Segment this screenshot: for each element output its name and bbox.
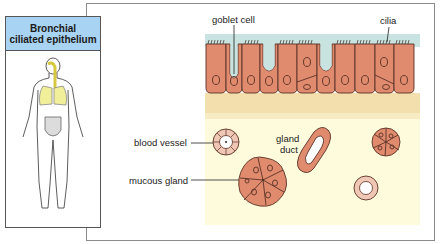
- gland-duct-label-2: duct: [280, 144, 298, 155]
- mucous-gland-label: mucous gland: [129, 175, 188, 186]
- mucous-gland: [239, 157, 287, 206]
- side-panel: Bronchial ciliated epithelium: [5, 16, 101, 228]
- goblet-cell-label: goblet cell: [212, 14, 255, 25]
- cilia-label: cilia: [380, 15, 396, 26]
- small-duct: [354, 176, 378, 200]
- side-panel-title: Bronchial ciliated epithelium: [6, 17, 100, 51]
- blood-vessel: [213, 129, 239, 155]
- gland-duct-label-1: gland: [276, 133, 299, 144]
- title-line-1: Bronchial: [30, 23, 76, 34]
- blood-vessel-label: blood vessel: [134, 137, 187, 148]
- title-line-2: ciliated epithelium: [9, 34, 96, 45]
- gland-cluster: [372, 128, 400, 156]
